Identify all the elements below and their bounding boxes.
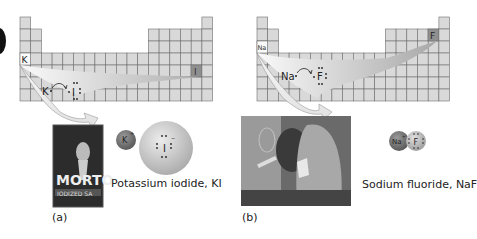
svg-text:K: K	[122, 136, 128, 145]
periodic-table-b: F Na Na F Na + F	[237, 0, 469, 239]
svg-text:I: I	[163, 143, 166, 154]
salt-container-photo: MORTO IODIZED SA	[53, 125, 114, 207]
panel-a: I K K I MORTO IODIZED SA K +	[0, 0, 235, 239]
table-cells-a	[20, 17, 213, 101]
panel-b: F Na Na F Na + F	[237, 0, 469, 239]
svg-text:−: −	[171, 135, 175, 141]
sodium-symbol: Na	[258, 44, 267, 52]
fluorine-symbol: F	[430, 31, 435, 41]
svg-text:+: +	[402, 134, 405, 139]
caption-b: Sodium fluoride, NaF	[362, 178, 477, 191]
lewis-metal-a: K	[42, 86, 49, 97]
lewis-nonmetal-a: I	[72, 87, 75, 98]
lewis-metal-b: Na	[281, 71, 295, 82]
panel-label-b: (b)	[242, 211, 258, 224]
svg-text:F: F	[414, 138, 419, 147]
caption-a: Potassium iodide, KI	[111, 177, 222, 190]
lewis-nonmetal-b: F	[317, 71, 323, 82]
panel-label-a: (a)	[52, 211, 67, 224]
svg-text:+: +	[130, 130, 134, 136]
svg-text:Na: Na	[392, 138, 402, 146]
periodic-table-a: I K K I MORTO IODIZED SA K +	[0, 0, 235, 239]
iodine-symbol: I	[194, 67, 197, 77]
iodide-ion-sphere	[139, 121, 193, 175]
svg-text:IODIZED SA: IODIZED SA	[57, 190, 93, 197]
children-brushing-photo	[241, 116, 351, 206]
brand-text: MORTO	[56, 172, 114, 188]
